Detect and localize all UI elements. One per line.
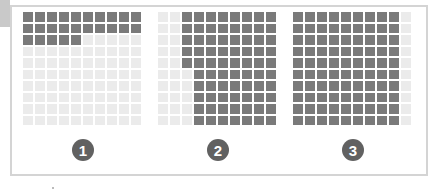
filled-cell: [194, 104, 204, 114]
empty-cell: [23, 47, 33, 57]
filled-cell: [242, 47, 252, 57]
empty-cell: [131, 93, 141, 103]
empty-cell: [401, 70, 411, 80]
waffle-grid-1: [23, 12, 144, 125]
empty-cell: [95, 104, 105, 114]
filled-cell: [95, 12, 105, 22]
filled-cell: [293, 81, 303, 91]
filled-cell: [194, 35, 204, 45]
empty-cell: [83, 58, 93, 68]
filled-cell: [293, 12, 303, 22]
filled-cell: [293, 35, 303, 45]
filled-cell: [341, 12, 351, 22]
empty-cell: [83, 81, 93, 91]
filled-cell: [218, 35, 228, 45]
filled-cell: [218, 47, 228, 57]
filled-cell: [353, 81, 363, 91]
filled-cell: [341, 58, 351, 68]
filled-cell: [317, 35, 327, 45]
empty-cell: [83, 104, 93, 114]
empty-cell: [71, 81, 81, 91]
empty-cell: [95, 81, 105, 91]
filled-cell: [317, 58, 327, 68]
filled-cell: [365, 116, 375, 126]
empty-cell: [95, 116, 105, 126]
empty-cell: [23, 104, 33, 114]
filled-cell: [266, 24, 276, 34]
filled-cell: [365, 93, 375, 103]
filled-cell: [71, 24, 81, 34]
empty-cell: [119, 58, 129, 68]
filled-cell: [365, 24, 375, 34]
filled-cell: [329, 35, 339, 45]
empty-cell: [119, 116, 129, 126]
empty-cell: [47, 81, 57, 91]
empty-cell: [23, 93, 33, 103]
filled-cell: [389, 104, 399, 114]
empty-cell: [158, 104, 168, 114]
filled-cell: [206, 35, 216, 45]
filled-cell: [242, 81, 252, 91]
filled-cell: [266, 47, 276, 57]
filled-cell: [254, 12, 264, 22]
filled-cell: [194, 93, 204, 103]
header-tab: [0, 0, 10, 27]
empty-cell: [59, 93, 69, 103]
filled-cell: [353, 70, 363, 80]
filled-cell: [254, 70, 264, 80]
filled-cell: [329, 12, 339, 22]
empty-cell: [59, 47, 69, 57]
filled-cell: [389, 81, 399, 91]
filled-cell: [47, 12, 57, 22]
filled-cell: [365, 35, 375, 45]
filled-cell: [131, 12, 141, 22]
filled-cell: [182, 58, 192, 68]
filled-cell: [218, 70, 228, 80]
filled-cell: [377, 116, 387, 126]
empty-cell: [401, 24, 411, 34]
empty-cell: [107, 93, 117, 103]
empty-cell: [107, 58, 117, 68]
filled-cell: [242, 104, 252, 114]
empty-cell: [107, 116, 117, 126]
filled-cell: [305, 70, 315, 80]
empty-cell: [47, 93, 57, 103]
filled-cell: [293, 24, 303, 34]
empty-cell: [95, 47, 105, 57]
filled-cell: [230, 81, 240, 91]
empty-cell: [182, 81, 192, 91]
empty-cell: [95, 70, 105, 80]
filled-cell: [83, 24, 93, 34]
filled-cell: [35, 35, 45, 45]
filled-cell: [206, 12, 216, 22]
empty-cell: [182, 70, 192, 80]
filled-cell: [254, 35, 264, 45]
filled-cell: [266, 35, 276, 45]
filled-cell: [71, 35, 81, 45]
filled-cell: [230, 24, 240, 34]
filled-cell: [317, 47, 327, 57]
filled-cell: [194, 24, 204, 34]
filled-cell: [242, 35, 252, 45]
empty-cell: [131, 116, 141, 126]
empty-cell: [131, 104, 141, 114]
filled-cell: [341, 35, 351, 45]
filled-cell: [254, 116, 264, 126]
filled-cell: [329, 58, 339, 68]
filled-cell: [254, 81, 264, 91]
filled-cell: [242, 70, 252, 80]
filled-cell: [230, 104, 240, 114]
empty-cell: [83, 116, 93, 126]
empty-cell: [401, 47, 411, 57]
filled-cell: [218, 104, 228, 114]
filled-cell: [206, 47, 216, 57]
empty-cell: [401, 93, 411, 103]
empty-cell: [71, 47, 81, 57]
filled-cell: [242, 93, 252, 103]
empty-cell: [35, 93, 45, 103]
filled-cell: [59, 35, 69, 45]
number-badge-1: 1: [72, 139, 94, 161]
empty-cell: [170, 93, 180, 103]
empty-cell: [107, 81, 117, 91]
filled-cell: [230, 58, 240, 68]
